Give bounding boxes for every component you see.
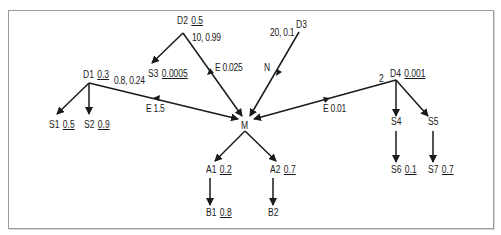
mid-arrow-d3-m bbox=[276, 69, 282, 76]
edge-label-d3-params: 20, 0.1 bbox=[270, 27, 294, 38]
edge-label-d4-params: 2 bbox=[379, 73, 383, 84]
edge-d4-s5 bbox=[396, 80, 428, 116]
edge-m-a2 bbox=[245, 131, 276, 161]
node-s4: S4 bbox=[391, 116, 401, 127]
node-a1: A10.2 bbox=[206, 164, 232, 175]
edges-layer bbox=[0, 0, 501, 235]
node-s1: S10.5 bbox=[49, 119, 75, 130]
mid-arrow-d1-m bbox=[153, 95, 160, 101]
edge-label-d2-params: 10, 0.99 bbox=[192, 32, 221, 43]
node-m: M bbox=[241, 120, 248, 131]
edge-label-e-d2: E 0.025 bbox=[215, 62, 243, 73]
node-s2: S20.9 bbox=[84, 119, 110, 130]
node-a2: A20.7 bbox=[270, 164, 296, 175]
node-s3: S30.0005 bbox=[148, 68, 188, 79]
node-b1: B10.8 bbox=[206, 207, 232, 218]
node-s5: S5 bbox=[428, 116, 438, 127]
edge-label-d1-params: 0.8, 0.24 bbox=[114, 75, 145, 86]
node-d2: D20.5 bbox=[177, 15, 203, 26]
node-d1: D10.3 bbox=[83, 69, 109, 80]
edge-d2-m bbox=[183, 33, 242, 116]
edge-label-e-d4: E 0.01 bbox=[323, 103, 346, 114]
edge-label-e-d3: N bbox=[264, 62, 270, 73]
edge-label-e-d1: E 1.5 bbox=[146, 103, 165, 114]
edge-m-a1 bbox=[215, 131, 245, 161]
node-b2: B2 bbox=[268, 207, 278, 218]
node-d3: D3 bbox=[296, 19, 307, 30]
node-s7: S70.7 bbox=[428, 164, 454, 175]
edge-d2-s3 bbox=[152, 33, 183, 63]
edge-d3-m bbox=[250, 32, 299, 116]
node-d4: D40.001 bbox=[390, 68, 426, 79]
edge-d1-s1 bbox=[57, 83, 89, 114]
node-s6: S60.1 bbox=[391, 164, 417, 175]
